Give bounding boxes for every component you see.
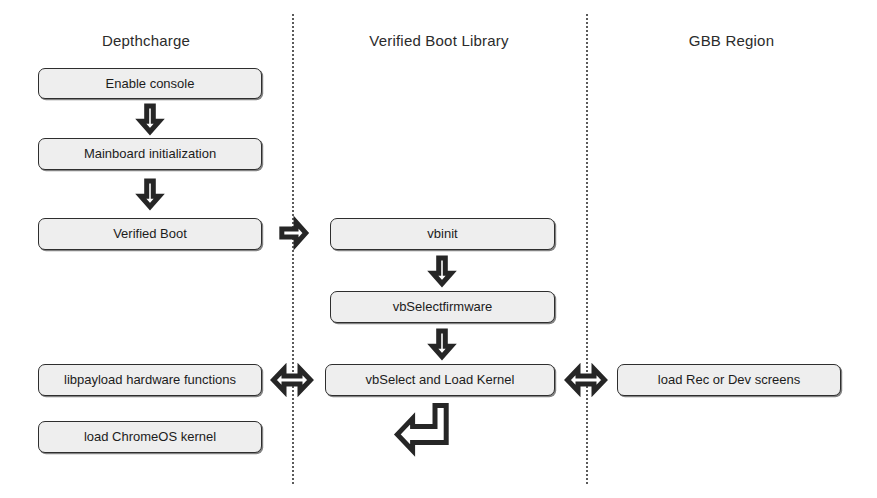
node-vbinit[interactable]: vbinit (330, 218, 555, 250)
down-arrow-icon-console-to-mainboard (139, 105, 161, 133)
node-libpayload-hardware-functions[interactable]: libpayload hardware functions (38, 364, 262, 396)
node-load-rec-or-dev-screens[interactable]: load Rec or Dev screens (617, 364, 841, 396)
node-vbselectfirmware[interactable]: vbSelectfirmware (330, 291, 555, 323)
down-arrow-icon-mainboard-to-verified-boot (139, 180, 161, 208)
down-arrow-icon-vbinit-to-vbselectfirmware (431, 257, 453, 285)
swimlane-divider-right (586, 14, 588, 484)
column-header-depthcharge: Depthcharge (0, 32, 292, 50)
right-arrow-icon-verified-boot-to-vbinit (281, 220, 307, 246)
boot-flow-diagram: Depthcharge Verified Boot Library GBB Re… (0, 0, 877, 498)
column-header-gbb-region: GBB Region (586, 32, 877, 50)
node-load-chromeos-kernel[interactable]: load ChromeOS kernel (38, 421, 262, 453)
bent-return-arrow-icon-vbselect-kernel-return (395, 404, 451, 452)
node-enable-console[interactable]: Enable console (38, 68, 262, 99)
column-header-verified-boot-library: Verified Boot Library (292, 32, 586, 50)
swimlane-divider-left (292, 14, 294, 484)
node-mainboard-initialization[interactable]: Mainboard initialization (38, 138, 262, 170)
node-vbselect-and-load-kernel[interactable]: vbSelect and Load Kernel (325, 364, 555, 396)
down-arrow-icon-vbselectfirmware-to-vbselect-kernel (431, 330, 453, 358)
node-verified-boot[interactable]: Verified Boot (38, 218, 262, 250)
